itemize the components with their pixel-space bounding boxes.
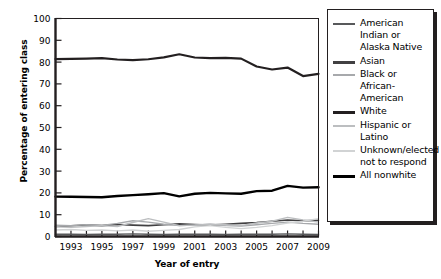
legend-box: American Indian or Alaska NativeAsianBla… [327, 9, 434, 222]
x-tick-label: 2001 [183, 242, 206, 252]
legend-swatch [333, 61, 355, 64]
legend-label: American Indian or Alaska Native [360, 17, 429, 54]
x-tick-label: 1993 [60, 242, 83, 252]
y-tick-label: 30 [39, 167, 51, 177]
x-tick-label: 2007 [276, 242, 299, 252]
series-line [56, 186, 319, 197]
legend-item: Asian [333, 55, 429, 67]
series-line [56, 54, 319, 76]
legend-label: Black or African-American [360, 68, 429, 105]
legend-items: American Indian or Alaska NativeAsianBla… [328, 10, 433, 182]
y-tick-label: 60 [39, 101, 51, 111]
legend-item: White [333, 105, 429, 117]
chart-figure: Percentage of entering class Year of ent… [0, 0, 441, 279]
y-tick-label: 50 [39, 123, 51, 133]
legend-label: All nonwhite [360, 169, 416, 181]
x-tick-label: 2005 [245, 242, 268, 252]
legend-label: Hispanic or Latino [360, 119, 429, 143]
legend-item: Unknown/elected not to respond [333, 144, 429, 168]
x-tick-label: 1999 [152, 242, 175, 252]
legend-item: American Indian or Alaska Native [333, 17, 429, 54]
y-tick-label: 90 [39, 36, 51, 46]
y-tick-label: 0 [45, 232, 51, 242]
legend-item: Hispanic or Latino [333, 119, 429, 143]
legend-label: Unknown/elected not to respond [360, 144, 439, 168]
series-line [56, 234, 319, 235]
legend-swatch [333, 23, 355, 25]
y-tick-label: 80 [39, 58, 51, 68]
legend-swatch [333, 175, 355, 178]
legend-label: Asian [360, 55, 385, 67]
legend-swatch [333, 111, 355, 114]
y-tick-label: 40 [39, 145, 51, 155]
legend-label: White [360, 105, 387, 117]
series-lines [56, 54, 319, 234]
y-tick-label: 20 [39, 188, 51, 198]
y-tick-label: 70 [39, 79, 51, 89]
plot-frame [56, 19, 319, 237]
x-tick-label: 1995 [90, 242, 113, 252]
y-axis-ticks: 0102030405060708090100 [33, 14, 61, 242]
legend-swatch [333, 125, 355, 127]
y-tick-label: 10 [39, 210, 51, 220]
legend-item: Black or African-American [333, 68, 429, 105]
legend-swatch [333, 74, 355, 76]
x-tick-label: 2009 [307, 242, 330, 252]
y-tick-label: 100 [33, 14, 50, 24]
x-tick-label: 1997 [121, 242, 144, 252]
legend-item: All nonwhite [333, 169, 429, 181]
legend-swatch [333, 150, 355, 152]
x-tick-label: 2003 [214, 242, 237, 252]
